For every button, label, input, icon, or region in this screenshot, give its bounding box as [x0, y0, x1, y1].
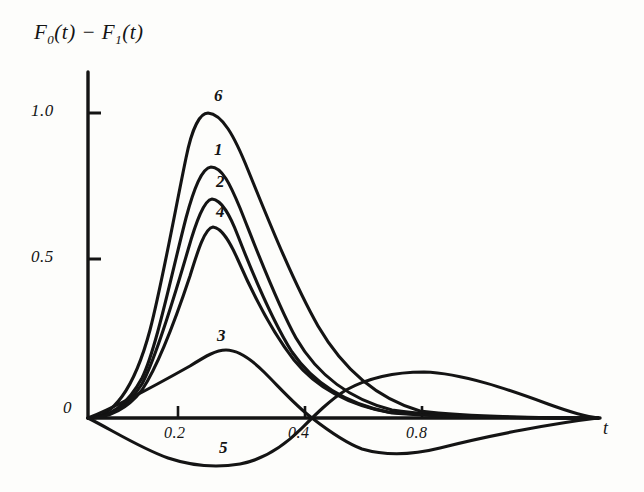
ytick-label-0-origin: 0 — [63, 398, 72, 418]
ytick-label-1.0: 1.0 — [31, 101, 54, 121]
axis-title-y: F0(t) − F1(t) — [34, 20, 143, 48]
curve-label-2: 2 — [216, 172, 225, 192]
xtick-label-0.4: 0.4 — [288, 424, 310, 442]
x-axis-name: t — [603, 418, 608, 439]
curve-label-5: 5 — [219, 438, 228, 458]
axis-title-mid: (t) − F — [54, 20, 115, 44]
axes-group — [88, 72, 600, 418]
curve-label-1: 1 — [214, 140, 223, 160]
curve-label-6: 6 — [214, 86, 223, 106]
curve-label-3: 3 — [217, 326, 226, 346]
curve-6 — [88, 113, 598, 418]
xtick-label-0.2: 0.2 — [164, 424, 186, 442]
curve-label-4: 4 — [216, 202, 225, 222]
axis-title-tail: (t) — [122, 20, 143, 44]
axis-title-F: F — [34, 20, 47, 44]
figure-plot-F0-minus-F1: F0(t) − F1(t) 1.0 0.5 0 0.2 0.4 0.8 t 6 … — [0, 0, 644, 492]
plot-canvas — [0, 0, 644, 492]
ytick-label-0.5: 0.5 — [31, 247, 54, 267]
xtick-label-0.8: 0.8 — [406, 424, 428, 442]
